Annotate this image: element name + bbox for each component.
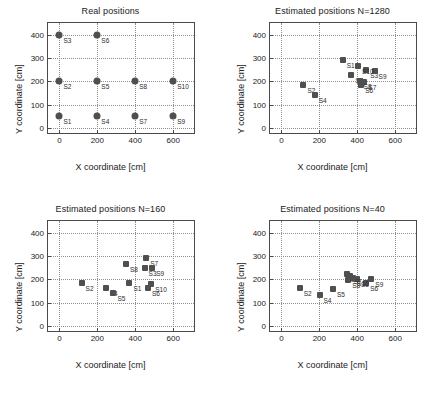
y-axis-tick-label: 200 [31,275,44,284]
data-point-marker [126,280,132,286]
data-point-label: S7 [139,119,147,126]
x-axis-tick-label: 400 [129,136,142,145]
x-axis-tick-label: 400 [129,334,142,343]
y-axis-tick-mark [48,233,51,234]
x-axis-tick-mark [97,328,98,331]
y-axis-label: Y coordinate [cm] [14,64,24,134]
y-axis-tick-label: 400 [31,228,44,237]
plot-area: 01002003004000200400600S1S2S3S4S5S6S7S8S… [47,22,195,134]
x-axis-tick-label: 600 [167,136,180,145]
y-axis-tick-mark [270,303,273,304]
panel-title: Real positions [0,6,221,16]
y-axis-tick-mark [270,81,273,82]
y-axis-tick-mark [48,35,51,36]
x-axis-tick-label: 200 [91,136,104,145]
data-point-label: S10 [357,281,369,288]
data-point-label: S2 [63,84,71,91]
y-axis-tick-mark [270,128,273,129]
data-point-label: S1 [63,119,71,126]
data-point-marker [94,113,101,120]
x-axis-tick-label: 0 [57,136,61,145]
y-axis-tick-label: 200 [253,77,266,86]
data-point-marker [79,280,85,286]
y-axis-tick-mark [270,105,273,106]
y-axis-tick-mark [270,35,273,36]
data-point-marker [94,31,101,38]
data-point-label: S1 [347,63,355,70]
data-point-marker [170,78,177,85]
y-axis-tick-mark [48,105,51,106]
y-axis-tick-label: 0 [40,124,44,133]
gridline-vertical [395,221,396,331]
y-axis-tick-mark [48,303,51,304]
data-point-label: S1 [133,286,141,293]
data-point-marker [340,57,346,63]
data-point-marker [94,78,101,85]
y-axis-tick-label: 0 [262,322,266,331]
x-axis-tick-mark [357,130,358,133]
x-axis-tick-mark [135,130,136,133]
x-axis-tick-label: 200 [91,334,104,343]
x-axis-tick-label: 200 [313,136,326,145]
data-point-marker [355,63,361,69]
panel-title: Estimated positions N=40 [222,204,443,214]
gridline-horizontal [270,105,416,106]
gridline-horizontal [48,326,194,327]
data-point-label: S5 [117,296,125,303]
x-axis-tick-mark [135,328,136,331]
data-point-label: S8 [364,84,372,91]
gridline-horizontal [270,35,416,36]
y-axis-tick-label: 100 [31,298,44,307]
y-axis-tick-mark [48,128,51,129]
data-point-label: S8 [139,84,147,91]
data-point-marker [143,255,149,261]
data-point-marker [317,292,323,298]
data-point-label: S5 [101,84,109,91]
x-axis-tick-mark [97,130,98,133]
y-axis-tick-mark [270,279,273,280]
gridline-horizontal [270,303,416,304]
gridline-horizontal [48,35,194,36]
gridline-vertical [281,221,282,331]
y-axis-tick-label: 200 [253,275,266,284]
data-point-marker [142,265,148,271]
gridline-horizontal [48,233,194,234]
y-axis-tick-label: 200 [31,77,44,86]
data-point-label: S6 [101,38,109,45]
plot-area: 01002003004000200400600S1S2S3S4S5S6S7S8S… [47,220,195,332]
y-axis-tick-label: 300 [31,252,44,261]
plot-area: 01002003004000200400600S1S2S3S4S5S6S7S8S… [269,22,417,134]
y-axis-tick-label: 100 [253,298,266,307]
data-point-marker [56,113,63,120]
data-point-label: S4 [319,98,327,105]
data-point-marker [170,113,177,120]
plot-area: 01002003004000200400600S1S2S3S4S5S6S7S8S… [269,220,417,332]
gridline-horizontal [270,326,416,327]
y-axis-tick-mark [48,326,51,327]
data-point-marker [357,78,363,84]
x-axis-tick-mark [281,130,282,133]
gridline-vertical [395,23,396,133]
data-point-marker [348,72,354,78]
data-point-marker [110,290,116,296]
gridline-horizontal [48,303,194,304]
x-axis-tick-label: 0 [279,334,283,343]
data-point-marker [148,281,154,287]
x-axis-tick-mark [173,130,174,133]
x-axis-tick-mark [173,328,174,331]
gridline-horizontal [48,279,194,280]
data-point-label: S9 [156,271,164,278]
chart-panel-real-positions: Real positions01002003004000200400600S1S… [0,0,221,198]
gridline-vertical [135,221,136,331]
gridline-horizontal [270,279,416,280]
data-point-label: S10 [155,287,167,294]
y-axis-tick-label: 100 [253,100,266,109]
y-axis-tick-mark [270,326,273,327]
data-point-label: S9 [375,282,383,289]
data-point-label: S3 [63,38,71,45]
gridline-horizontal [270,81,416,82]
x-axis-tick-mark [357,328,358,331]
y-axis-tick-mark [48,58,51,59]
x-axis-tick-mark [395,130,396,133]
data-point-marker [350,275,356,281]
